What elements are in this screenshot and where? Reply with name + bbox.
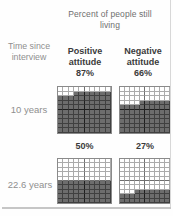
waffle-cell — [106, 128, 111, 133]
waffle-chart-22years-negative — [119, 158, 171, 204]
waffle-chart-10years-negative — [119, 86, 171, 134]
column-header-positive: Positive attitude 87% — [56, 46, 114, 79]
figure-title: Percent of people still living — [62, 9, 158, 30]
page-edge-shadow-right — [170, 0, 171, 208]
positive-22years-percent: 50% — [57, 141, 112, 151]
positive-attitude-label: Positive attitude — [56, 46, 114, 67]
time-since-interview-label: Time since interview — [4, 41, 54, 63]
waffle-chart-10years-positive — [57, 86, 112, 134]
column-header-negative: Negative attitude 66% — [114, 46, 172, 79]
row-label-22-6-years: 22.6 years — [4, 179, 56, 190]
row-label-10-years: 10 years — [6, 104, 52, 115]
negative-attitude-label: Negative attitude — [114, 46, 172, 67]
waffle-chart-22years-positive — [57, 158, 112, 204]
positive-10years-percent: 87% — [56, 68, 114, 79]
page-edge-shadow-bottom — [2, 207, 171, 209]
waffle-cell — [106, 199, 111, 203]
negative-10years-percent: 66% — [114, 68, 172, 79]
waffle-figure: Percent of people still living Time sinc… — [0, 0, 173, 216]
negative-22years-percent: 27% — [119, 141, 171, 151]
